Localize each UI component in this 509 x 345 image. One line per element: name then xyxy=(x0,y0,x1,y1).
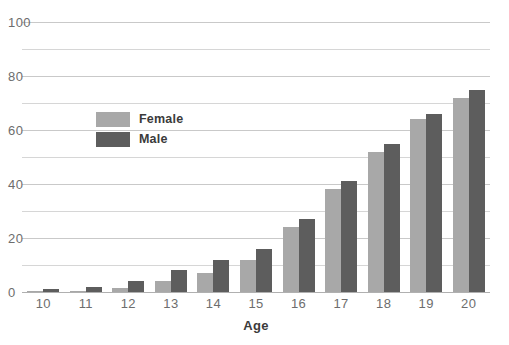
x-axis-tick-label: 14 xyxy=(192,296,235,311)
bar-chart: 020406080100 1011121314151617181920 Age … xyxy=(0,0,509,345)
legend-label-female: Female xyxy=(139,112,183,126)
bar-female-age-19 xyxy=(410,119,426,292)
bar-group-age-14 xyxy=(192,22,235,292)
bar-male-age-15 xyxy=(256,249,272,292)
legend-item-male: Male xyxy=(96,130,183,148)
bar-group-age-16 xyxy=(277,22,320,292)
bar-male-age-12 xyxy=(128,281,144,292)
x-axis-title: Age xyxy=(22,318,490,333)
bar-female-age-18 xyxy=(368,152,384,292)
bar-group-age-18 xyxy=(362,22,405,292)
bar-male-age-14 xyxy=(213,260,229,292)
bar-group-age-13 xyxy=(150,22,193,292)
bar-male-age-13 xyxy=(171,270,187,292)
x-axis-tick-labels: 1011121314151617181920 xyxy=(22,296,490,311)
bar-male-age-20 xyxy=(469,90,485,293)
x-axis-tick-label: 12 xyxy=(107,296,150,311)
x-axis-tick-label: 20 xyxy=(447,296,490,311)
bar-group-age-17 xyxy=(320,22,363,292)
legend-item-female: Female xyxy=(96,110,183,128)
x-axis-tick-label: 13 xyxy=(150,296,193,311)
x-axis-tick-label: 10 xyxy=(22,296,65,311)
bar-female-age-15 xyxy=(240,260,256,292)
x-axis-line xyxy=(22,292,490,293)
legend-label-male: Male xyxy=(139,132,168,146)
bar-male-age-16 xyxy=(299,219,315,292)
bar-group-age-10 xyxy=(22,22,65,292)
bar-female-age-14 xyxy=(197,273,213,292)
bar-female-age-20 xyxy=(453,98,469,292)
bar-male-age-17 xyxy=(341,181,357,292)
bar-female-age-16 xyxy=(283,227,299,292)
bar-female-age-17 xyxy=(325,189,341,292)
x-axis-tick-label: 18 xyxy=(362,296,405,311)
bar-group-age-12 xyxy=(107,22,150,292)
bar-male-age-19 xyxy=(426,114,442,292)
bar-group-age-20 xyxy=(447,22,490,292)
bar-male-age-18 xyxy=(384,144,400,293)
x-axis-tick-label: 15 xyxy=(235,296,278,311)
bar-female-age-13 xyxy=(155,281,171,292)
bar-group-age-19 xyxy=(405,22,448,292)
legend-swatch-male-icon xyxy=(96,132,130,147)
x-axis-tick-label: 16 xyxy=(277,296,320,311)
x-axis-tick-label: 17 xyxy=(320,296,363,311)
x-axis-tick-label: 11 xyxy=(65,296,108,311)
bar-group-age-15 xyxy=(235,22,278,292)
bars-layer xyxy=(22,22,490,292)
x-axis-tick-label: 19 xyxy=(405,296,448,311)
chart-legend: Female Male xyxy=(96,110,183,150)
legend-swatch-female-icon xyxy=(96,112,130,127)
bar-group-age-11 xyxy=(65,22,108,292)
